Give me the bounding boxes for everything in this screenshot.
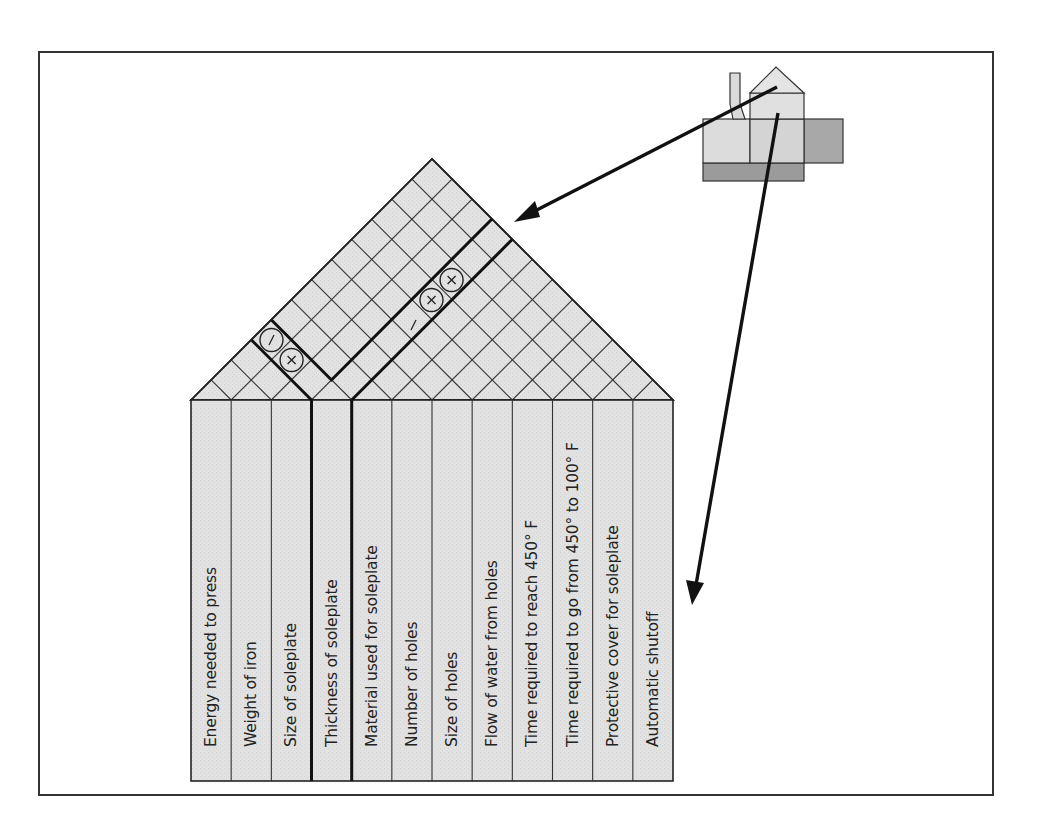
column-label: Material used for soleplate <box>352 405 392 775</box>
arrowhead-icon <box>514 201 540 222</box>
column-label: Size of soleplate <box>271 405 311 775</box>
column-label-text: Weight of iron <box>242 641 260 747</box>
column-label: Protective cover for soleplate <box>593 405 633 775</box>
column-label-text: Size of holes <box>443 652 461 747</box>
column-label-text: Size of soleplate <box>282 623 300 747</box>
column-label: Automatic shutoff <box>633 405 673 775</box>
column-label: Time required to go from 450° to 100° F <box>553 405 593 775</box>
column-label: Number of holes <box>392 405 432 775</box>
column-label-text: Time required to reach 450° F <box>523 520 541 747</box>
house-of-quality-thumbnail <box>703 67 843 181</box>
column-label: Thickness of soleplate <box>312 405 352 775</box>
column-label: Size of holes <box>432 405 472 775</box>
column-label: Energy needed to press <box>191 405 231 775</box>
column-label-text: Flow of water from holes <box>483 560 501 747</box>
column-label-text: Number of holes <box>403 622 421 747</box>
thumb-left-wall <box>703 119 750 163</box>
thumb-chimney <box>730 73 745 119</box>
thumb-roof <box>750 67 804 93</box>
column-label: Flow of water from holes <box>472 405 512 775</box>
arrow-to-columns <box>696 113 778 585</box>
arrowhead-icon <box>686 580 704 605</box>
column-label: Weight of iron <box>231 405 271 775</box>
thumb-bottom-bar <box>703 163 804 181</box>
column-label-text: Energy needed to press <box>202 567 220 747</box>
column-label-text: Automatic shutoff <box>644 612 662 747</box>
column-label: Time required to reach 450° F <box>512 405 552 775</box>
column-label-text: Protective cover for soleplate <box>604 525 622 747</box>
thumb-right-block <box>804 119 843 163</box>
column-label-text: Thickness of soleplate <box>323 579 341 747</box>
column-label-text: Material used for soleplate <box>363 545 381 747</box>
column-label-text: Time required to go from 450° to 100° F <box>564 442 582 747</box>
diagram-canvas: Energy needed to pressWeight of ironSize… <box>0 0 1037 835</box>
